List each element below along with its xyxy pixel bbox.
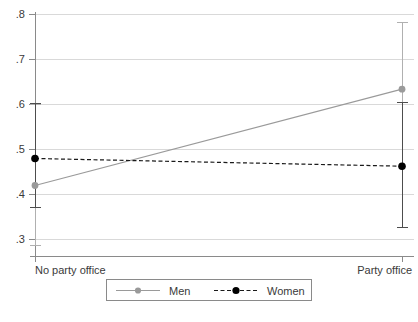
chart-legend: Men Women — [107, 280, 312, 301]
series-men-line — [35, 89, 402, 185]
x-category-labels: No party office Party office — [35, 264, 412, 276]
x-label-no-party-office: No party office — [35, 264, 106, 276]
series-women-line — [35, 159, 402, 167]
y-tick-label-0.3: .3 — [16, 233, 25, 245]
y-tick-label-0.6: .6 — [16, 98, 25, 110]
y-tick-labels: .8 .7 .6 .5 .4 .3 — [16, 8, 25, 245]
x-axis — [30, 257, 414, 263]
legend-label-women: Women — [267, 285, 305, 297]
chart-figure: .8 .7 .6 .5 .4 .3 No party office Party … — [0, 0, 418, 322]
y-axis — [29, 12, 36, 256]
line-chart-svg: .8 .7 .6 .5 .4 .3 No party office Party … — [0, 0, 418, 322]
men-point-party-office — [399, 86, 406, 93]
x-label-party-office: Party office — [357, 264, 412, 276]
y-tick-label-0.4: .4 — [16, 188, 25, 200]
legend-label-men: Men — [169, 285, 190, 297]
women-point-party-office — [398, 162, 406, 170]
y-tick-label-0.7: .7 — [16, 53, 25, 65]
series-men-error-bars — [30, 22, 408, 246]
men-point-no-party-office — [32, 182, 39, 189]
legend-marker-women — [232, 287, 239, 294]
legend-marker-men — [135, 287, 141, 293]
women-point-no-party-office — [31, 155, 39, 163]
women-line-segment — [35, 159, 402, 167]
y-tick-label-0.8: .8 — [16, 8, 25, 20]
series-women-error-bars — [30, 103, 408, 228]
y-tick-label-0.5: .5 — [16, 143, 25, 155]
men-line-segment — [35, 89, 402, 185]
gridlines — [35, 15, 414, 240]
